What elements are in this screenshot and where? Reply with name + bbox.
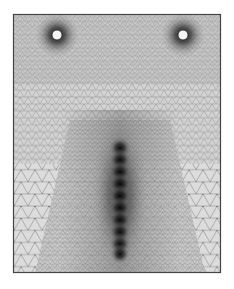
crack-refinement	[92, 117, 148, 273]
left-hole	[52, 30, 62, 40]
fem-mesh-figure	[0, 0, 234, 289]
figure-caption-bottom	[8, 279, 226, 287]
right-hole	[178, 30, 188, 40]
